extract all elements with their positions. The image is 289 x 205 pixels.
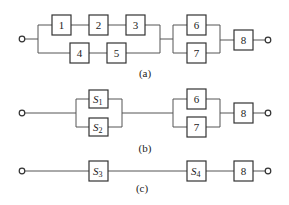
- block-2: 2: [89, 15, 108, 35]
- block-label: 8: [241, 165, 247, 177]
- input-terminal: [19, 110, 25, 116]
- block-s4: S4: [187, 161, 206, 181]
- output-terminal: [265, 168, 271, 174]
- block-8: 8: [234, 161, 253, 181]
- caption-a: (a): [139, 67, 152, 80]
- block-1: 1: [52, 15, 71, 35]
- block-label: 4: [77, 47, 83, 59]
- block-label: 7: [194, 47, 200, 59]
- block-label: 1: [59, 19, 65, 31]
- block-7: 7: [187, 117, 206, 137]
- caption-c: (c): [136, 182, 149, 195]
- block-s3: S3: [89, 161, 108, 181]
- block-label: 5: [114, 47, 120, 59]
- block-label: 2: [96, 19, 102, 31]
- block-5: 5: [107, 43, 126, 63]
- diagram-a: 1 2 3 4 5 6 7 8 (a): [19, 15, 271, 80]
- block-label: 7: [194, 121, 200, 133]
- diagram-b: S1 S2 6 7 8 (b): [19, 89, 271, 155]
- block-label: 8: [241, 107, 247, 119]
- diagram-c: S3 S4 8 (c): [19, 161, 271, 195]
- reliability-block-diagrams: 1 2 3 4 5 6 7 8 (a): [0, 0, 289, 205]
- block-7: 7: [187, 43, 206, 63]
- block-label: 8: [241, 34, 247, 46]
- input-terminal: [19, 168, 25, 174]
- block-s1: S1: [89, 90, 108, 108]
- block-8: 8: [234, 103, 253, 123]
- block-label: 6: [194, 93, 200, 105]
- output-terminal: [265, 110, 271, 116]
- block-4: 4: [70, 43, 89, 63]
- block-s2: S2: [89, 118, 108, 136]
- block-8: 8: [234, 30, 253, 50]
- block-label: 6: [194, 19, 200, 31]
- output-terminal: [265, 37, 271, 43]
- block-3: 3: [126, 15, 145, 35]
- block-label: 3: [133, 19, 139, 31]
- input-terminal: [19, 36, 25, 42]
- caption-b: (b): [139, 142, 152, 155]
- block-6: 6: [187, 89, 206, 109]
- block-6: 6: [187, 15, 206, 35]
